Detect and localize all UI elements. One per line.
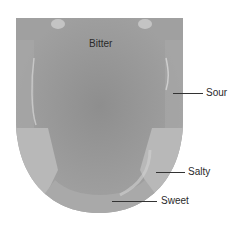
tongue-diagram: Bitter Sour Salty Sweet [0,0,240,227]
leader-line-salty [156,172,185,173]
label-sour: Sour [206,88,227,98]
leader-line-sour [173,93,203,94]
tongue-illustration [0,0,240,227]
label-sweet: Sweet [161,196,189,206]
label-salty: Salty [188,167,210,177]
label-bitter: Bitter [89,39,112,49]
leader-line-sweet [112,201,157,202]
